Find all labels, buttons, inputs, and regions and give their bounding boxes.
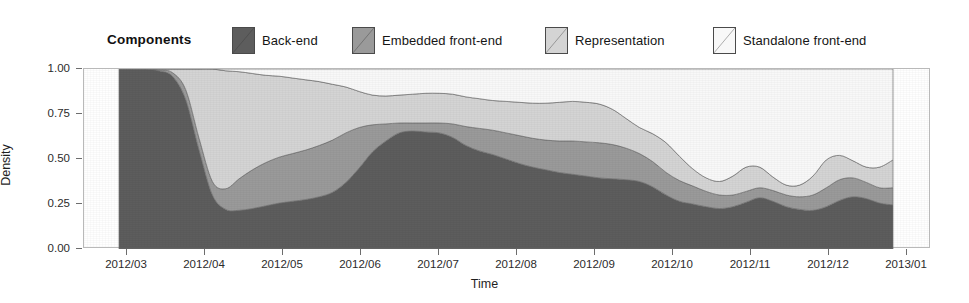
legend-item-label: Embedded front-end [382, 33, 502, 48]
x-tick-mark [126, 249, 127, 255]
legend-swatch-icon [352, 27, 375, 54]
y-tick-mark [76, 68, 82, 69]
stacked-area-plot [84, 69, 931, 249]
y-tick-mark [76, 113, 82, 114]
x-axis-title: Time [0, 277, 969, 291]
y-tick-mark [76, 203, 82, 204]
y-tick-label: 0.25 [48, 197, 70, 209]
chart-legend: Components Back-end Embedded front-end R… [0, 10, 969, 56]
legend-item-embedded-front-end[interactable]: Embedded front-end [352, 26, 502, 54]
y-tick-label: 0.50 [48, 152, 70, 164]
x-tick-label: 2012/07 [417, 258, 459, 270]
legend-item-label: Representation [575, 33, 665, 48]
x-tick-mark [594, 249, 595, 255]
y-tick-label: 0.00 [48, 242, 70, 254]
legend-item-label: Back-end [262, 33, 318, 48]
x-tick-label: 2012/11 [730, 258, 771, 270]
x-tick-mark [360, 249, 361, 255]
x-tick-mark [438, 249, 439, 255]
x-tick-mark [516, 249, 517, 255]
x-tick-mark [204, 249, 205, 255]
y-axis: 0.00 0.25 0.50 0.75 1.00 [8, 0, 70, 303]
x-tick-label: 2012/03 [105, 258, 147, 270]
legend-item-back-end[interactable]: Back-end [232, 26, 318, 54]
x-tick-mark [828, 249, 829, 255]
x-tick-mark [282, 249, 283, 255]
legend-swatch-icon [713, 27, 736, 54]
legend-item-label: Standalone front-end [743, 33, 866, 48]
legend-swatch-icon [232, 27, 255, 54]
x-tick-label: 2012/09 [573, 258, 615, 270]
x-tick-label: 2013/01 [885, 258, 927, 270]
legend-title: Components [107, 32, 192, 47]
chart-container: Components Back-end Embedded front-end R… [0, 0, 969, 303]
x-tick-mark [750, 249, 751, 255]
x-tick-label: 2012/12 [807, 258, 849, 270]
x-tick-label: 2012/06 [339, 258, 381, 270]
x-tick-mark [672, 249, 673, 255]
legend-item-standalone-front-end[interactable]: Standalone front-end [713, 26, 866, 54]
legend-item-representation[interactable]: Representation [545, 26, 665, 54]
x-tick-mark [906, 249, 907, 255]
x-tick-label: 2012/08 [495, 258, 537, 270]
y-tick-label: 1.00 [48, 62, 70, 74]
legend-swatch-icon [545, 27, 568, 54]
y-tick-mark [76, 158, 82, 159]
x-tick-label: 2012/04 [183, 258, 225, 270]
plot-panel [83, 68, 930, 248]
y-tick-mark [76, 248, 82, 249]
y-axis-title: Density [0, 144, 13, 186]
x-tick-label: 2012/10 [651, 258, 693, 270]
y-tick-label: 0.75 [48, 107, 70, 119]
x-tick-label: 2012/05 [261, 258, 303, 270]
